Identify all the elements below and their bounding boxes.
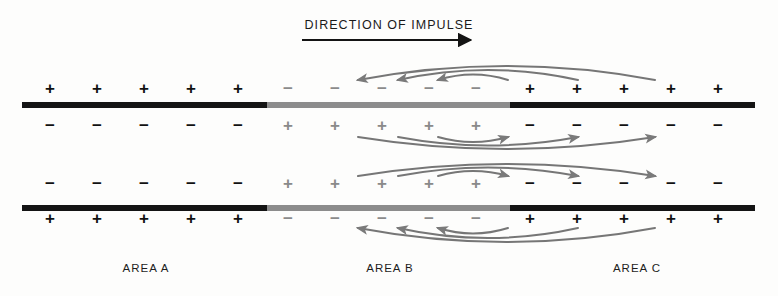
- charge-negative: −: [377, 80, 387, 97]
- charge-negative: −: [283, 210, 293, 227]
- area-label-a: AREA A: [123, 262, 170, 274]
- charge-negative: −: [619, 117, 629, 134]
- charge-negative: −: [424, 210, 434, 227]
- charge-positive: +: [186, 210, 196, 227]
- charge-negative: −: [525, 175, 535, 192]
- charge-positive: +: [525, 80, 535, 97]
- charge-positive: +: [45, 80, 55, 97]
- charge-negative: −: [713, 175, 723, 192]
- charge-positive: +: [330, 175, 340, 192]
- area-label-b: AREA B: [366, 262, 414, 274]
- charge-negative: −: [666, 175, 676, 192]
- charge-positive: +: [92, 210, 102, 227]
- charge-negative: −: [572, 117, 582, 134]
- area-label-c: AREA C: [613, 262, 661, 274]
- charge-positive: +: [283, 175, 293, 192]
- charge-positive: +: [424, 175, 434, 192]
- charge-negative: −: [283, 80, 293, 97]
- charge-positive: +: [713, 210, 723, 227]
- charge-positive: +: [139, 80, 149, 97]
- charge-negative: −: [619, 175, 629, 192]
- charge-negative: −: [377, 210, 387, 227]
- charge-negative: −: [139, 117, 149, 134]
- charge-negative: −: [186, 175, 196, 192]
- charge-negative: −: [424, 80, 434, 97]
- charge-positive: +: [233, 80, 243, 97]
- charge-positive: +: [471, 175, 481, 192]
- diagram-vector-layer: [0, 0, 778, 296]
- charge-positive: +: [471, 117, 481, 134]
- charge-negative: −: [233, 117, 243, 134]
- charge-positive: +: [377, 117, 387, 134]
- charge-positive: +: [139, 210, 149, 227]
- upper-membrane-segment-b: [267, 102, 510, 108]
- charge-positive: +: [666, 210, 676, 227]
- charge-negative: −: [713, 117, 723, 134]
- outer-top-arc-large: [358, 66, 655, 80]
- charge-negative: −: [330, 210, 340, 227]
- charge-positive: +: [525, 210, 535, 227]
- current-flow-arrows: [358, 66, 655, 242]
- charge-positive: +: [713, 80, 723, 97]
- charge-negative: −: [471, 210, 481, 227]
- charge-negative: −: [666, 117, 676, 134]
- upper-membrane-segment-a: [22, 102, 267, 108]
- charge-positive: +: [619, 210, 629, 227]
- charge-positive: +: [572, 210, 582, 227]
- charge-negative: −: [330, 80, 340, 97]
- charge-positive: +: [45, 210, 55, 227]
- charge-positive: +: [283, 117, 293, 134]
- outer-bottom-arc-small: [438, 228, 508, 234]
- charge-positive: +: [92, 80, 102, 97]
- charge-negative: −: [471, 80, 481, 97]
- charge-negative: −: [92, 175, 102, 192]
- charge-negative: −: [572, 175, 582, 192]
- diagram-canvas: DIRECTION OF IMPULSE +++++−−−−−+++++−−−−…: [0, 0, 778, 296]
- charge-positive: +: [233, 210, 243, 227]
- charge-negative: −: [45, 117, 55, 134]
- charge-positive: +: [186, 80, 196, 97]
- upper-membrane-segment-c: [510, 102, 755, 108]
- charge-positive: +: [572, 80, 582, 97]
- charge-negative: −: [45, 175, 55, 192]
- charge-negative: −: [525, 117, 535, 134]
- charge-negative: −: [186, 117, 196, 134]
- charge-positive: +: [666, 80, 676, 97]
- outer-bottom-arc-large: [358, 228, 655, 242]
- charge-positive: +: [377, 175, 387, 192]
- inner-top-arc-small: [438, 137, 508, 142]
- charge-positive: +: [330, 117, 340, 134]
- charge-negative: −: [92, 117, 102, 134]
- charge-negative: −: [233, 175, 243, 192]
- charge-positive: +: [424, 117, 434, 134]
- charge-positive: +: [619, 80, 629, 97]
- charge-negative: −: [139, 175, 149, 192]
